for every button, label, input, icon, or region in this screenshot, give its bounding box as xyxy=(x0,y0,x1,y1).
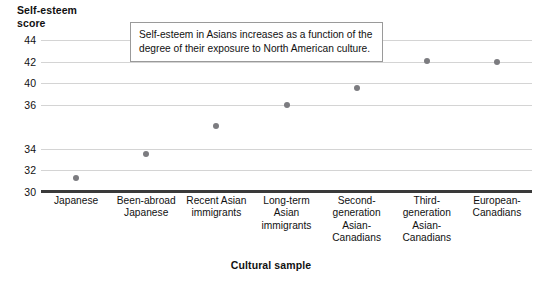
x-axis-tick-labels: JapaneseBeen-abroad JapaneseRecent Asian… xyxy=(41,195,532,253)
annotation-line-1: Self-esteem in Asians increases as a fun… xyxy=(139,28,374,42)
data-point xyxy=(73,175,79,181)
data-point xyxy=(354,85,360,91)
chart-figure: Self-esteem score 44424036343230 Self-es… xyxy=(0,0,542,281)
x-tick-label: European- Canadians xyxy=(462,195,532,220)
y-axis-tick-labels: 44424036343230 xyxy=(10,40,36,192)
data-point xyxy=(213,123,219,129)
x-tick-label: Been-abroad Japanese xyxy=(111,195,181,220)
data-point xyxy=(143,151,149,157)
gridline-34 xyxy=(41,149,532,150)
y-tick-label: 32 xyxy=(12,165,36,176)
plot-area xyxy=(41,40,532,192)
annotation-callout: Self-esteem in Asians increases as a fun… xyxy=(130,22,383,62)
gridline-32 xyxy=(41,170,532,171)
annotation-line-2: degree of their exposure to North Americ… xyxy=(139,42,374,56)
y-tick-label: 36 xyxy=(12,100,36,111)
gridline-40 xyxy=(41,83,532,84)
y-tick-label: 44 xyxy=(12,35,36,46)
data-point xyxy=(284,102,290,108)
y-axis-title: Self-esteem score xyxy=(17,4,77,30)
y-tick-label: 34 xyxy=(12,144,36,155)
y-tick-label: 30 xyxy=(12,187,36,198)
x-axis-title: Cultural sample xyxy=(0,259,542,271)
x-tick-label: Second- generation Asian- Canadians xyxy=(322,195,392,245)
y-tick-label: 40 xyxy=(12,78,36,89)
y-tick-label: 42 xyxy=(12,57,36,68)
x-tick-label: Long-term Asian immigrants xyxy=(251,195,321,232)
x-tick-label: Recent Asian immigrants xyxy=(181,195,251,220)
data-point xyxy=(494,59,500,65)
x-tick-label: Japanese xyxy=(41,195,111,207)
x-tick-label: Third- generation Asian- Canadians xyxy=(392,195,462,245)
x-axis-line xyxy=(41,190,532,193)
data-point xyxy=(424,58,430,64)
